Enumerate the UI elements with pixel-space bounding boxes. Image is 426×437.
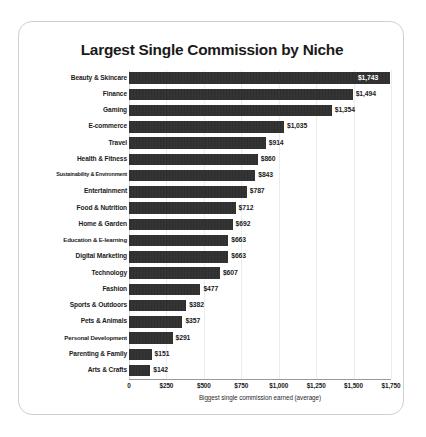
category-label: Travel: [109, 137, 127, 149]
bar: [129, 300, 186, 311]
bar: [129, 251, 228, 262]
bar: [129, 154, 258, 165]
bar: [129, 332, 173, 343]
bar-row: Technology$607: [129, 265, 391, 281]
category-label: Finance: [103, 88, 127, 100]
value-label: $712: [239, 202, 254, 214]
x-tick-label: $1,000: [269, 382, 288, 389]
value-label: $1,743: [358, 72, 378, 84]
category-label: Education & E-learning: [63, 234, 127, 246]
bar-row: Entertainment$787: [129, 184, 391, 200]
value-label: $151: [155, 348, 170, 360]
x-tick-label: $1,750: [382, 382, 401, 389]
value-label: $914: [269, 137, 284, 149]
bar-row: Digital Marketing$663: [129, 249, 391, 265]
category-label: Sports & Outdoors: [70, 299, 127, 311]
bar: [129, 72, 390, 83]
value-label: $382: [189, 299, 204, 311]
bar: [129, 365, 150, 376]
bar-row: Pets & Animals$357: [129, 314, 391, 330]
value-label: $1,494: [356, 88, 376, 100]
value-label: $843: [258, 169, 273, 181]
category-label: Beauty & Skincare: [71, 72, 127, 84]
value-label: $1,354: [335, 104, 355, 116]
bar-row: Travel$914: [129, 135, 391, 151]
x-axis-line: [129, 379, 391, 380]
category-label: Sustainability & Environment: [56, 169, 127, 181]
bar: [129, 284, 200, 295]
category-label: E-commerce: [88, 120, 127, 132]
category-label: Pets & Animals: [81, 315, 127, 327]
value-label: $142: [153, 364, 168, 376]
bar: [129, 137, 266, 148]
bar: [129, 219, 233, 230]
bar-row: Personal Development$291: [129, 330, 391, 346]
category-label: Parenting & Family: [69, 348, 127, 360]
x-tick-label: $250: [160, 382, 174, 389]
bar-row: Health & Fitness$860: [129, 151, 391, 167]
value-label: $692: [236, 218, 251, 230]
bar: [129, 349, 152, 360]
x-tick-label: $1,500: [344, 382, 363, 389]
bar-row: Parenting & Family$151: [129, 346, 391, 362]
bar-row: Food & Nutrition$712: [129, 200, 391, 216]
bar-row: Beauty & Skincare$1,743: [129, 70, 391, 86]
bar-row: Home & Garden$692: [129, 216, 391, 232]
category-label: Entertainment: [84, 185, 127, 197]
gridline-1750: [391, 70, 392, 379]
value-label: $357: [185, 315, 200, 327]
category-label: Fashion: [102, 283, 127, 295]
category-label: Home & Garden: [78, 218, 127, 230]
value-label: $663: [231, 234, 246, 246]
category-label: Health & Fitness: [77, 153, 127, 165]
value-label: $860: [261, 153, 276, 165]
x-tick-label: $750: [234, 382, 248, 389]
x-tick-label: $500: [197, 382, 211, 389]
value-label: $477: [203, 283, 218, 295]
value-label: $787: [250, 185, 265, 197]
category-label: Arts & Crafts: [88, 364, 127, 376]
bar-row: Education & E-learning$663: [129, 233, 391, 249]
value-label: $607: [223, 267, 238, 279]
bar: [129, 105, 332, 116]
bar: [129, 89, 353, 100]
bar-row: Arts & Crafts$142: [129, 363, 391, 379]
bar: [129, 316, 182, 327]
bar: [129, 170, 255, 181]
x-tick-label: 0: [127, 382, 130, 389]
category-label: Personal Development: [64, 332, 127, 344]
bar-row: Gaming$1,354: [129, 103, 391, 119]
category-label: Gaming: [103, 104, 127, 116]
category-label: Technology: [91, 267, 127, 279]
bar: [129, 121, 284, 132]
chart-card: Largest Single Commission by Niche Beaut…: [18, 21, 404, 415]
bar: [129, 235, 228, 246]
bar: [129, 267, 220, 278]
bar-row: Sports & Outdoors$382: [129, 298, 391, 314]
x-axis-label: Biggest single commission earned (averag…: [129, 394, 391, 401]
chart-title: Largest Single Commission by Niche: [19, 41, 404, 59]
bar-row: E-commerce$1,035: [129, 119, 391, 135]
x-tick-label: $1,250: [307, 382, 326, 389]
bar-row: Finance$1,494: [129, 86, 391, 102]
bar-row: Fashion$477: [129, 281, 391, 297]
value-label: $1,035: [287, 120, 307, 132]
bar: [129, 186, 247, 197]
bar-chart-plot-area: Beauty & Skincare$1,743Finance$1,494Gami…: [129, 70, 391, 379]
category-label: Digital Marketing: [76, 250, 127, 262]
value-label: $291: [176, 332, 191, 344]
bar-row: Sustainability & Environment$843: [129, 168, 391, 184]
category-label: Food & Nutrition: [77, 202, 127, 214]
value-label: $663: [231, 250, 246, 262]
bar: [129, 202, 236, 213]
